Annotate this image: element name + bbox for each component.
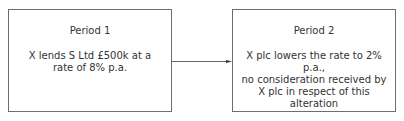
period-1-title: Period 1 [9, 25, 171, 37]
period-2-box: Period 2 X plc lowers the rate to 2% p.a… [232, 9, 396, 112]
period-2-text: X plc lowers the rate to 2% p.a., no con… [233, 50, 395, 110]
period-1-text: X lends S Ltd £500k at a rate of 8% p.a. [9, 50, 171, 74]
arrow-icon [172, 60, 232, 63]
period-1-box: Period 1 X lends S Ltd £500k at a rate o… [8, 9, 172, 112]
period-2-title: Period 2 [233, 25, 395, 37]
